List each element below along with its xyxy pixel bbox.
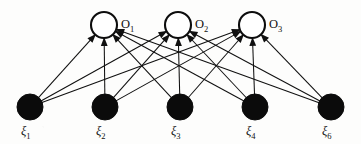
input-nodes-group <box>17 94 344 120</box>
output-node-label-O1: O1 <box>121 18 134 33</box>
output-node-O1 <box>91 12 117 38</box>
edges-group <box>38 29 323 103</box>
input-node-label-x3: ξ3 <box>171 125 181 140</box>
input-node-x2 <box>92 94 118 120</box>
input-node-label-x2: ξ2 <box>96 125 106 140</box>
output-node-O2 <box>165 12 191 38</box>
input-node-x4 <box>242 94 268 120</box>
output-node-label-O2: O2 <box>195 18 208 33</box>
output-node-O3 <box>239 12 265 38</box>
network-diagram-figure: O1O2O3ξ1ξ2ξ3ξ4ξ6 <box>0 0 361 144</box>
connection-edge <box>260 34 322 99</box>
input-node-x1 <box>17 94 43 120</box>
input-node-x5 <box>318 94 344 120</box>
output-nodes-group <box>91 12 265 38</box>
input-node-x3 <box>167 94 193 120</box>
connection-edge <box>115 29 319 103</box>
input-node-label-x1: ξ1 <box>21 125 31 140</box>
network-graph-canvas <box>0 0 361 144</box>
input-node-label-x5: ξ6 <box>322 125 332 140</box>
output-node-label-O3: O3 <box>269 18 282 33</box>
input-node-label-x4: ξ4 <box>246 125 256 140</box>
connection-edge <box>38 34 96 98</box>
